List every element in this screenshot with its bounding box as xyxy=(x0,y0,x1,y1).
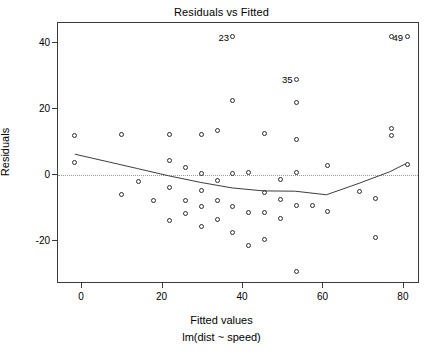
point-label: 23 xyxy=(218,31,229,42)
x-axis-tick xyxy=(162,283,163,288)
x-axis-tick-label: 80 xyxy=(397,291,408,302)
x-axis-tick xyxy=(81,283,82,288)
data-point xyxy=(167,218,172,223)
plot-area: 233549 xyxy=(57,22,419,283)
x-axis-tick-label: 60 xyxy=(317,291,328,302)
x-axis-tick-label: 0 xyxy=(78,291,84,302)
y-axis-tick-label: 0 xyxy=(25,168,50,179)
residuals-vs-fitted-chart: Residuals vs Fitted 233549 Fitted values… xyxy=(0,0,443,362)
data-point xyxy=(262,237,267,242)
data-point xyxy=(199,132,204,137)
data-point xyxy=(199,224,204,229)
data-point xyxy=(373,196,378,201)
point-label: 35 xyxy=(282,74,293,85)
data-point xyxy=(278,177,283,182)
x-axis-label: Fitted values xyxy=(0,314,443,326)
data-point xyxy=(215,198,220,203)
page-title: Residuals vs Fitted xyxy=(0,6,443,18)
data-point xyxy=(215,178,220,183)
y-axis-tick xyxy=(52,108,57,109)
data-point xyxy=(405,162,410,167)
point-label: 49 xyxy=(393,31,404,42)
lowess-smooth-curve xyxy=(58,23,418,282)
data-point xyxy=(199,171,204,176)
model-formula-label: lm(dist ~ speed) xyxy=(0,331,443,343)
y-axis-tick-label: 40 xyxy=(25,36,50,47)
data-point xyxy=(199,204,204,209)
y-axis-tick-label: -20 xyxy=(25,235,50,246)
data-point xyxy=(183,198,188,203)
data-point xyxy=(199,188,204,193)
x-axis-tick-label: 40 xyxy=(236,291,247,302)
data-point xyxy=(167,185,172,190)
x-axis-tick xyxy=(322,283,323,288)
y-axis-label: Residuals xyxy=(0,128,11,176)
y-axis-tick xyxy=(52,240,57,241)
y-axis-tick xyxy=(52,42,57,43)
x-axis-tick-label: 20 xyxy=(156,291,167,302)
data-point xyxy=(278,197,283,202)
data-point xyxy=(167,132,172,137)
data-point xyxy=(294,100,299,105)
data-point xyxy=(215,128,220,133)
y-axis-tick-label: 20 xyxy=(25,102,50,113)
data-point xyxy=(294,77,299,82)
y-axis-tick xyxy=(52,174,57,175)
data-point xyxy=(310,203,315,208)
x-axis-tick xyxy=(242,283,243,288)
data-point xyxy=(136,179,141,184)
data-point xyxy=(389,133,394,138)
x-axis-tick xyxy=(403,283,404,288)
data-point xyxy=(183,165,188,170)
